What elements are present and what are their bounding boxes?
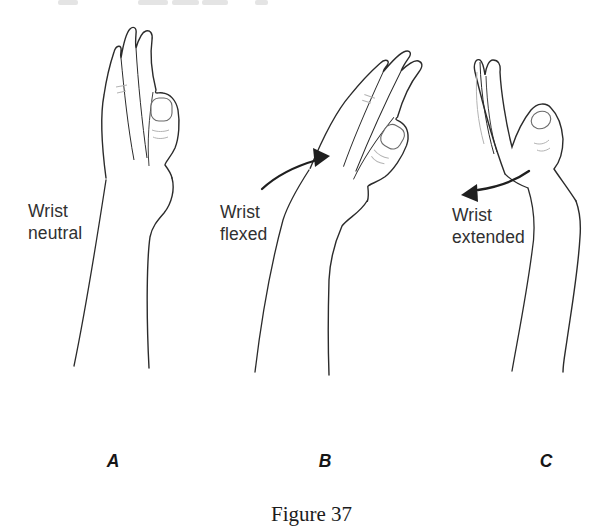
figure-caption: Figure 37 xyxy=(271,502,352,527)
forearm-line xyxy=(563,201,580,372)
hand-wrist-neutral-illustration xyxy=(74,27,179,368)
forearm-line xyxy=(328,201,367,375)
figure-37-panel: Wrist neutral Wrist flexed Wrist extende… xyxy=(0,0,614,531)
label-wrist-extended: Wrist extended xyxy=(452,204,525,248)
hand-wrist-flexed-illustration xyxy=(255,36,449,375)
panel-letter-a: A xyxy=(98,451,128,472)
panel-letter-c: C xyxy=(531,451,561,472)
label-wrist-neutral: Wrist neutral xyxy=(28,200,82,244)
panel-letter-b: B xyxy=(310,451,340,472)
forearm-line xyxy=(147,178,173,368)
label-wrist-flexed: Wrist flexed xyxy=(220,201,267,245)
hand-illustrations xyxy=(0,0,614,531)
